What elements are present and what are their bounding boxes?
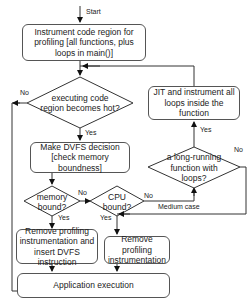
long-yes-label: Yes [200, 126, 211, 134]
remove-insert-text: Remove profiling instrumentation and ins… [19, 226, 95, 268]
remove-box: Remove profiling instrumentation [104, 236, 170, 264]
hot-decision-text: executing code region becomes hot? [40, 92, 120, 114]
hot-no-label: No [20, 89, 29, 97]
dvfs-decision-text: Make DVFS decision [check memory boundne… [34, 142, 126, 174]
instrument-code-text: Instrument code region for profiling [al… [27, 27, 141, 59]
mem-yes-label: Yes [58, 214, 69, 222]
application-execution-box: Application execution [17, 273, 170, 298]
jit-text: JIT and instrument all loops inside the … [152, 87, 236, 119]
start-label: Start [86, 8, 101, 16]
jit-box: JIT and instrument all loops inside the … [148, 86, 240, 120]
cpu-bound-decision-text: CPU bound? [99, 191, 135, 213]
mem-no-label: No [78, 189, 87, 197]
remove-insert-box: Remove profiling instrumentation and ins… [16, 229, 98, 264]
hot-yes-label: Yes [85, 129, 96, 137]
application-execution-text: Application execution [53, 280, 133, 291]
remove-text: Remove profiling instrumentation [107, 234, 167, 266]
cpu-no-label: No [144, 192, 153, 200]
cpu-yes-label: Yes [100, 214, 111, 222]
long-running-decision-text: a long-running function with loops? [162, 154, 226, 182]
dvfs-decision-box: Make DVFS decision [check memory boundne… [30, 142, 130, 173]
medium-case-label: Medium case [158, 203, 200, 211]
memory-bound-decision-text: memory bound? [34, 191, 70, 213]
instrument-code-box: Instrument code region for profiling [al… [22, 24, 146, 61]
long-no-label: No [234, 146, 243, 154]
